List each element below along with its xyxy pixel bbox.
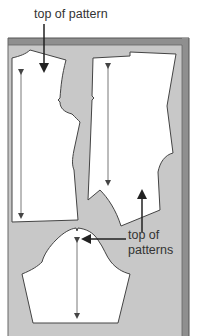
top-of-patterns-label-line2: patterns — [128, 243, 173, 257]
pattern-layout-diagram: top of pattern top of patterns — [0, 0, 197, 336]
top-of-pattern-label: top of pattern — [34, 7, 108, 21]
top-of-patterns-label-line1: top of — [128, 228, 160, 242]
